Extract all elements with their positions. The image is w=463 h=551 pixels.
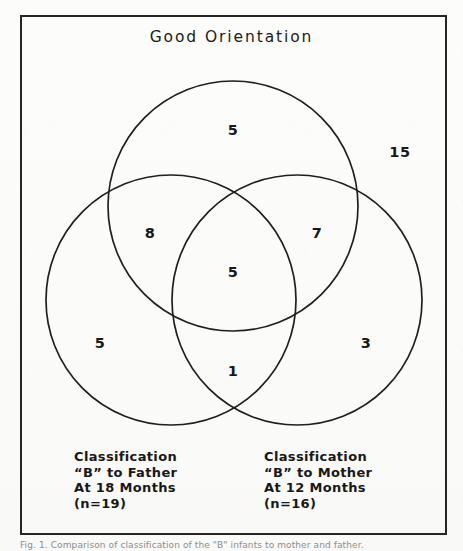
region-count-top-left: 8 (145, 225, 156, 241)
set-caption-left-line-4: (n=19) (74, 496, 177, 512)
region-count-all-three: 5 (228, 264, 239, 280)
figure-caption-text: Fig. 1. Comparison of classification of … (20, 540, 447, 551)
region-count-top-right: 7 (312, 225, 323, 241)
set-caption-right-line-4: (n=16) (264, 496, 372, 512)
set-caption-left-line-3: At 18 Months (74, 480, 177, 496)
region-count-left-right: 1 (228, 363, 239, 379)
region-count-right-only: 3 (361, 335, 372, 351)
venn-circle-right (172, 175, 422, 425)
set-caption-left-father: Classification “B” to Father At 18 Month… (74, 449, 177, 511)
region-count-top-only: 5 (228, 122, 239, 138)
figure-page: Good Orientation 5 5 3 8 7 5 1 15 Classi… (0, 0, 463, 551)
set-caption-right-line-1: Classification (264, 449, 372, 465)
set-caption-left-line-2: “B” to Father (74, 465, 177, 481)
set-caption-left-line-1: Classification (74, 449, 177, 465)
region-count-left-only: 5 (95, 335, 106, 351)
set-caption-right-line-2: “B” to Mother (264, 465, 372, 481)
venn-circle-top (108, 81, 358, 331)
venn-circle-left (46, 175, 296, 425)
region-count-outside: 15 (389, 144, 410, 160)
set-caption-right-mother: Classification “B” to Mother At 12 Month… (264, 449, 372, 511)
set-caption-right-line-3: At 12 Months (264, 480, 372, 496)
